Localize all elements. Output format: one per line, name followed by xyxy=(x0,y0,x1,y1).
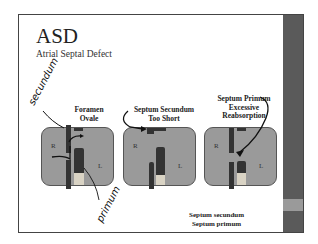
pointer-line-secundum xyxy=(43,111,64,128)
handwritten-primum: primum xyxy=(94,184,123,225)
handwritten-secundum: secundum xyxy=(26,56,60,107)
arrowhead-icon xyxy=(236,150,244,157)
curved-arrow-secundum-short xyxy=(123,111,143,129)
arrowhead-icon xyxy=(80,134,84,138)
handwritten-annotations: secundum primum xyxy=(0,0,318,244)
pointer-line-primum xyxy=(84,168,99,200)
flow-arrow-lower xyxy=(52,146,70,159)
curved-arrow-primum-reabsorption xyxy=(240,97,268,152)
arrowhead-icon xyxy=(141,126,147,132)
